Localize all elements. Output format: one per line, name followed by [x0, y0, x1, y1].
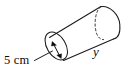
radius-leader-line: [35, 51, 53, 61]
height-dimension-label: y: [93, 45, 99, 58]
far-cap-hidden-arc: [95, 7, 103, 40]
radius-arrowhead-upper: [51, 41, 56, 46]
radius-dimension-label: 5 cm: [4, 54, 29, 67]
far-cap-visible-arc: [101, 7, 120, 39]
cylinder-top-edge: [50, 7, 101, 38]
radius-arrowhead-lower: [57, 54, 62, 59]
cylinder-figure: 5 cm y: [0, 0, 126, 75]
cylinder-bottom-edge: [64, 39, 114, 61]
